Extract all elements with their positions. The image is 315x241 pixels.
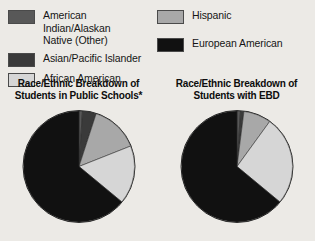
legend-item-hispanic: Hispanic [157,9,312,24]
legend-label-american-indian-alaskan-native: American Indian/Alaskan Native (Other) [43,9,153,47]
legend-swatch-european-american [157,38,184,52]
chart-students-with-ebd: Race/Ethnic Breakdown of Students with E… [158,78,315,233]
legend-swatch-hispanic [157,10,184,24]
charts-container: Race/Ethnic Breakdown of Students in Pub… [0,78,315,241]
legend-item-american-indian-alaskan-native: American Indian/Alaskan Native (Other) [8,9,153,47]
chart-title-public-schools: Race/Ethnic Breakdown of Students in Pub… [4,78,153,102]
legend-column-right: Hispanic European American [157,9,312,57]
chart-public-schools: Race/Ethnic Breakdown of Students in Pub… [0,78,157,233]
pie-chart-public-schools [22,110,135,223]
chart-title-students-with-ebd: Race/Ethnic Breakdown of Students with E… [162,78,311,102]
legend-label-european-american: European American [192,37,283,50]
legend-item-european-american: European American [157,37,312,52]
legend-item-asian-pacific-islander: Asian/Pacific Islander [8,52,153,67]
pie-chart-students-with-ebd [180,110,293,223]
chart-legend: American Indian/Alaskan Native (Other) A… [0,0,315,72]
legend-label-asian-pacific-islander: Asian/Pacific Islander [43,52,141,65]
pie-wrap-students-with-ebd [158,108,315,233]
pie-wrap-public-schools [0,108,157,233]
legend-swatch-american-indian-alaskan-native [8,10,35,24]
legend-label-hispanic: Hispanic [192,9,231,22]
legend-swatch-asian-pacific-islander [8,53,35,67]
figure-root: American Indian/Alaskan Native (Other) A… [0,0,315,241]
